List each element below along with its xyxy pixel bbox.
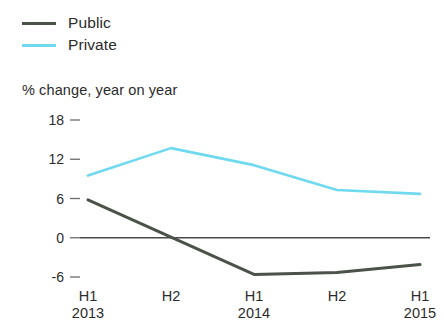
y-tick-label: 18: [30, 112, 64, 128]
x-tick-period: H2: [328, 288, 347, 305]
plot-area: 181260-6 H12013H2H12014H2H12015: [0, 0, 444, 325]
x-tick-label: H2: [328, 288, 347, 305]
y-tick-label: -6: [30, 269, 64, 285]
x-tick-year: 2014: [238, 305, 270, 322]
y-tick-label: 12: [30, 151, 64, 167]
y-tick-label: 0: [30, 230, 64, 246]
x-tick-label: H12014: [238, 288, 270, 322]
x-tick-label: H12013: [72, 288, 104, 322]
x-tick-period: H1: [404, 288, 436, 305]
x-tick-period: H1: [72, 288, 104, 305]
plot-svg: [0, 0, 444, 325]
x-tick-period: H1: [238, 288, 270, 305]
y-tick-marks: [70, 120, 80, 277]
series-line-private: [88, 148, 420, 194]
x-tick-year: 2015: [404, 305, 436, 322]
x-tick-year: 2013: [72, 305, 104, 322]
x-tick-label: H12015: [404, 288, 436, 322]
x-tick-period: H2: [162, 288, 181, 305]
line-chart: Public Private % change, year on year 18…: [0, 0, 444, 325]
x-tick-label: H2: [162, 288, 181, 305]
y-tick-label: 6: [30, 191, 64, 207]
